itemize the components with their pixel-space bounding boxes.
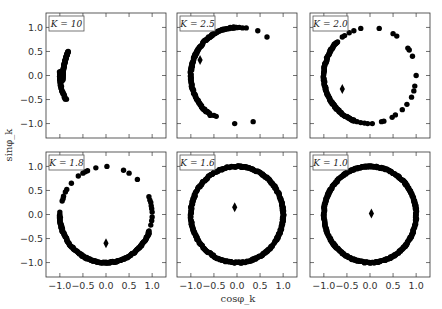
data-point <box>104 164 109 169</box>
y-tick-label: 1.0 <box>28 161 43 172</box>
data-point <box>126 170 131 175</box>
x-tick-label: 0.0 <box>98 280 113 291</box>
data-point <box>379 119 384 124</box>
legend: K = 2.5 <box>179 16 215 31</box>
y-tick-label: 0.0 <box>28 209 43 220</box>
legend-label: K = 2.0 <box>312 19 348 29</box>
x-tick-label: 0.5 <box>122 280 137 291</box>
x-tick-label: 1.0 <box>145 280 160 291</box>
data-point <box>64 97 69 102</box>
subplot-5: −1.0−0.50.00.51.0K = 1.6 <box>177 152 297 291</box>
data-point <box>255 28 260 33</box>
plot-frame <box>177 152 297 277</box>
data-point <box>148 222 153 227</box>
y-tick-label: −0.5 <box>20 233 43 244</box>
legend-label: K = 1.8 <box>48 158 84 168</box>
data-point <box>214 114 219 119</box>
x-tick-label: −0.5 <box>71 280 94 291</box>
y-tick-label: 0.0 <box>28 70 43 81</box>
data-point <box>135 177 140 182</box>
data-point <box>394 33 399 38</box>
x-tick-label: 0.0 <box>229 280 244 291</box>
data-point <box>76 173 81 178</box>
legend: K = 2.0 <box>312 16 348 31</box>
subplot-3: K = 2.0 <box>310 13 430 138</box>
data-point <box>59 198 64 203</box>
data-point <box>250 119 255 124</box>
y-tick-label: 1.0 <box>28 22 43 33</box>
data-point <box>80 170 85 175</box>
x-tick-label: 0.0 <box>362 280 377 291</box>
x-tick-label: −1.0 <box>179 280 202 291</box>
legend: K = 1.6 <box>179 155 215 170</box>
data-point <box>121 168 126 173</box>
subplot-grid: 1.00.50.0−0.5−1.0K = 10K = 2.5K = 2.0−1.… <box>20 13 430 291</box>
x-axis-label: cosφ_k <box>221 293 257 305</box>
data-point <box>413 73 418 78</box>
data-point <box>264 34 269 39</box>
plot-frame <box>177 13 297 138</box>
data-point <box>407 47 412 52</box>
x-tick-label: 1.0 <box>276 280 291 291</box>
data-point <box>281 212 286 217</box>
y-tick-label: −1.0 <box>20 257 43 268</box>
subplot-6: −1.0−0.50.00.51.0K = 1.0 <box>310 152 430 291</box>
data-point <box>69 181 74 186</box>
data-point <box>351 28 356 33</box>
data-point <box>232 121 237 126</box>
legend: K = 1.0 <box>312 155 348 170</box>
data-point <box>389 115 394 120</box>
plot-frame <box>310 13 430 138</box>
y-tick-label: −0.5 <box>20 94 43 105</box>
data-point <box>351 118 356 123</box>
y-tick-label: −1.0 <box>20 118 43 129</box>
data-point <box>342 33 347 38</box>
data-point <box>409 94 414 99</box>
legend-label: K = 1.0 <box>312 158 348 168</box>
figure: 1.00.50.0−0.5−1.0K = 10K = 2.5K = 2.0−1.… <box>0 0 442 309</box>
data-point <box>412 83 417 88</box>
subplot-2: K = 2.5 <box>177 13 297 138</box>
data-point <box>358 26 363 31</box>
legend-label: K = 1.6 <box>179 158 215 168</box>
plot-frame <box>46 152 166 277</box>
data-point <box>370 121 375 126</box>
x-tick-label: 0.5 <box>386 280 401 291</box>
y-axis-label: sinφ_k <box>3 128 15 162</box>
data-point <box>85 168 90 173</box>
data-point <box>65 49 71 55</box>
subplot-1: 1.00.50.0−0.5−1.0K = 10 <box>20 13 166 138</box>
legend-label: K = 2.5 <box>179 19 215 29</box>
subplot-4: −1.0−0.50.00.51.01.00.50.0−0.5−1.0K = 1.… <box>20 152 166 291</box>
data-point <box>147 228 152 233</box>
x-tick-label: −0.5 <box>202 280 225 291</box>
legend-label: K = 10 <box>50 19 83 29</box>
data-point <box>404 102 409 107</box>
x-tick-label: 1.0 <box>409 280 424 291</box>
y-tick-label: 0.5 <box>28 185 43 196</box>
x-tick-label: 0.5 <box>253 280 268 291</box>
data-point <box>414 212 419 217</box>
legend: K = 10 <box>49 16 84 31</box>
y-tick-label: 0.5 <box>28 46 43 57</box>
data-point <box>410 54 415 59</box>
data-point <box>149 209 154 214</box>
x-tick-label: −1.0 <box>312 280 335 291</box>
x-tick-label: −1.0 <box>48 280 71 291</box>
x-tick-label: −0.5 <box>335 280 358 291</box>
legend: K = 1.8 <box>48 155 84 170</box>
data-point <box>411 88 416 93</box>
data-point <box>244 25 249 30</box>
data-point <box>57 209 62 214</box>
data-point <box>377 26 382 31</box>
data-point <box>400 107 405 112</box>
data-point <box>93 165 98 170</box>
